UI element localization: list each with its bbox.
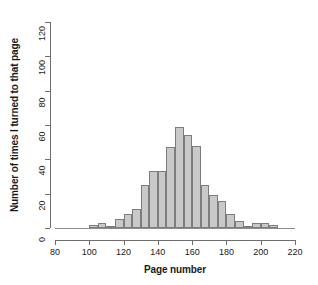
x-axis-tick-label: 160 [177, 247, 207, 257]
y-axis-line [50, 22, 51, 228]
histogram-bar [201, 185, 210, 228]
histogram-bar [166, 147, 175, 228]
x-axis-title: Page number [55, 264, 295, 275]
y-axis-tick-label: 80 [37, 91, 48, 113]
x-axis-tick [295, 240, 296, 245]
histogram-bar [235, 221, 244, 228]
x-axis-tick-label: 200 [246, 247, 276, 257]
x-axis-tick [124, 240, 125, 245]
histogram-bar [209, 195, 218, 228]
histogram-figure: Number of times I turned to that page 02… [0, 0, 318, 285]
histogram-bar [141, 185, 150, 228]
x-axis-tick-label: 120 [109, 247, 139, 257]
x-axis-line [55, 240, 295, 241]
x-axis-tick [89, 240, 90, 245]
x-axis-tick-label: 220 [280, 247, 310, 257]
histogram-bar [115, 219, 124, 228]
plot-baseline [55, 228, 295, 229]
y-axis-tick-label: 20 [37, 194, 48, 216]
x-axis-tick [261, 240, 262, 245]
y-axis-title: Number of times I turned to that page [6, 5, 24, 245]
y-axis-tick-label: 100 [37, 57, 48, 79]
x-axis-tick-label: 140 [143, 247, 173, 257]
x-axis-tick [192, 240, 193, 245]
y-axis-tick-label: 60 [37, 126, 48, 148]
histogram-bar [149, 171, 158, 228]
histogram-bar [124, 214, 133, 228]
histogram-bar [158, 171, 167, 228]
y-axis-tick-label: 120 [37, 23, 48, 45]
histogram-bar [184, 135, 193, 228]
histogram-bar [175, 127, 184, 228]
x-axis-tick-label: 180 [211, 247, 241, 257]
x-axis-tick-label: 100 [74, 247, 104, 257]
histogram-bar [132, 209, 141, 228]
x-axis-tick [226, 240, 227, 245]
histogram-bar [226, 214, 235, 228]
histogram-bar [192, 146, 201, 228]
histogram-bar [218, 201, 227, 228]
histogram-bars [55, 22, 295, 228]
x-axis-tick [158, 240, 159, 245]
x-axis-tick-label: 80 [40, 247, 70, 257]
y-axis-tick-label: 40 [37, 160, 48, 182]
x-axis-tick [55, 240, 56, 245]
